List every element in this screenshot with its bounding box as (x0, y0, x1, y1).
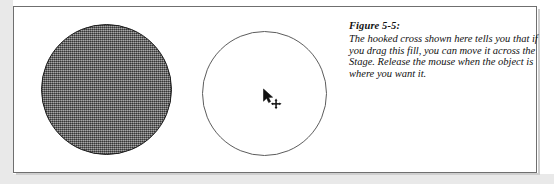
outline-circle-shape[interactable] (202, 31, 327, 156)
caption-line: you drag this fill, you can move it acro… (349, 45, 545, 57)
filled-circle-shape[interactable] (41, 24, 172, 155)
figure-label: Figure 5-5: (349, 20, 545, 32)
figure-frame: Figure 5-5: The hooked cross shown here … (13, 6, 537, 173)
figure-page: Figure 5-5: The hooked cross shown here … (0, 0, 554, 184)
frame-shadow-bottom (16, 173, 540, 175)
caption-line: The hooked cross shown here tells you th… (349, 33, 545, 45)
page-margin-bottom (0, 174, 554, 184)
page-margin-left (0, 0, 13, 184)
figure-caption-text: The hooked cross shown here tells you th… (349, 33, 545, 79)
figure-caption: Figure 5-5: The hooked cross shown here … (349, 20, 545, 79)
caption-line: where you want it. (349, 68, 545, 80)
caption-line: Stage. Release the mouse when the object… (349, 56, 545, 68)
